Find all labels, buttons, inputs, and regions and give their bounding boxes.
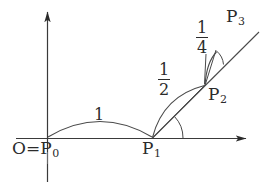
- point-label-p0: O=P0: [12, 140, 59, 157]
- one-quarter-denominator: 4: [196, 39, 208, 56]
- one-half-numerator: 1: [158, 62, 170, 79]
- origin-p-subscript: 0: [52, 147, 60, 160]
- one-half-denominator: 2: [158, 81, 170, 98]
- p2-text: P: [208, 84, 219, 104]
- arc-length-label-one-half: 1 2: [158, 62, 170, 98]
- point-label-p2: P2: [208, 86, 227, 103]
- p3-subscript: 3: [237, 15, 245, 28]
- origin-equals-sign: =: [26, 138, 40, 158]
- p1-subscript: 1: [153, 147, 161, 160]
- angle-arc-p1: [175, 117, 184, 139]
- arc-length-label-1: 1: [94, 107, 104, 123]
- point-label-p1: P1: [142, 140, 161, 157]
- p2-subscript: 2: [219, 93, 227, 106]
- angle-arc-p2: [217, 51, 224, 65]
- origin-o-text: O: [12, 138, 26, 158]
- one-quarter-numerator: 1: [196, 20, 208, 37]
- arc-length-label-one-quarter: 1 4: [196, 20, 208, 56]
- origin-p-text: P: [40, 138, 51, 158]
- point-label-p3: P3: [226, 8, 245, 25]
- diagram-canvas: O=P0 P1 P2 P3 1 1 2 1 4: [0, 0, 267, 194]
- p1-text: P: [142, 138, 153, 158]
- p3-text: P: [226, 6, 237, 26]
